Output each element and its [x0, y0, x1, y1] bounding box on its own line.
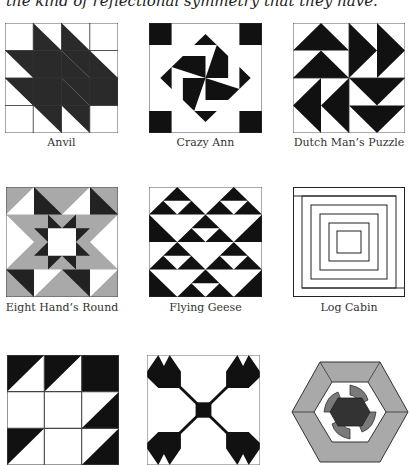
block-label-flying-geese: Flying Geese	[149, 301, 262, 314]
quilt-block-row3-middle	[147, 355, 260, 465]
block-label-dutch-mans-puzzle: Dutch Man’s Puzzle	[290, 136, 408, 149]
quilt-block-flying-geese	[149, 187, 262, 297]
block-label-eight-hands-round: Eight Hand’s Round	[0, 301, 124, 314]
block-label-crazy-ann: Crazy Ann	[149, 136, 262, 149]
quilt-block-crazy-ann	[149, 23, 262, 133]
intro-text: the kind of reflectional symmetry that t…	[6, 0, 378, 10]
quilt-block-dutch-mans-puzzle	[293, 23, 405, 133]
quilt-block-row3-right	[290, 360, 410, 464]
block-label-anvil: Anvil	[5, 136, 118, 149]
block-label-log-cabin: Log Cabin	[293, 301, 405, 314]
quilt-block-log-cabin	[293, 187, 405, 297]
quilt-block-anvil	[5, 23, 118, 133]
quilt-block-eight-hands-round	[6, 187, 118, 297]
quilt-block-row3-left	[7, 355, 119, 465]
